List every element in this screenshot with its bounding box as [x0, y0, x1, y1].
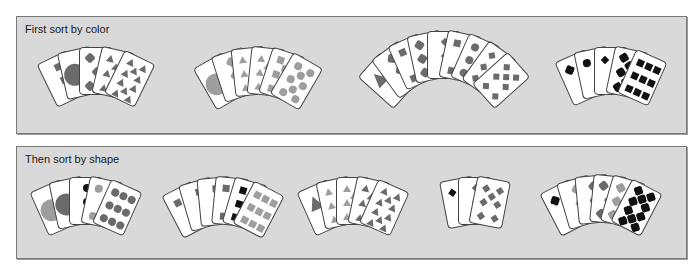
diamond-symbol-icon — [496, 187, 504, 195]
square-symbol-icon — [646, 78, 655, 87]
square-symbol-icon — [256, 223, 265, 232]
panel-title: First sort by color — [25, 23, 109, 35]
triangle-symbol-icon — [139, 63, 149, 73]
triangle-symbol-icon — [327, 201, 336, 210]
triangle-symbol-icon — [324, 187, 333, 196]
circle-symbol-icon — [290, 94, 301, 105]
triangle-symbol-icon — [238, 55, 247, 63]
clover-symbol-icon — [599, 181, 608, 190]
square-symbol-icon — [172, 198, 181, 207]
circle-symbol-icon — [285, 74, 296, 85]
diamond-symbol-icon — [490, 214, 498, 222]
clover-symbol-icon — [86, 54, 94, 62]
circle-symbol-icon — [293, 61, 304, 72]
triangle-symbol-icon — [240, 69, 249, 77]
triangle-symbol-icon — [133, 74, 143, 84]
triangle-symbol-icon — [388, 202, 398, 212]
triangle-symbol-icon — [384, 212, 394, 222]
circle-symbol-icon — [121, 207, 132, 218]
diamond-symbol-icon — [479, 198, 487, 206]
square-symbol-icon — [397, 48, 406, 57]
diamond-symbol-icon — [503, 84, 509, 90]
clover-symbol-icon — [565, 65, 576, 76]
square-symbol-icon — [453, 39, 461, 47]
circle-symbol-icon — [278, 87, 289, 98]
diamond-symbol-icon — [492, 93, 498, 99]
panel-sort-by-color: First sort by color — [16, 16, 687, 134]
diamond-symbol-icon — [477, 212, 485, 220]
clover-symbol-icon — [418, 54, 427, 63]
clover-symbol-icon — [415, 40, 424, 49]
diamond-symbol-icon — [493, 73, 499, 79]
triangle-symbol-icon — [126, 57, 136, 67]
circle-symbol-icon — [115, 220, 126, 231]
circle-symbol-icon — [295, 70, 306, 81]
clover-symbol-icon — [635, 211, 646, 222]
diamond-symbol-icon — [503, 74, 509, 80]
square-symbol-icon — [269, 198, 278, 207]
diamond-symbol-icon — [488, 52, 495, 59]
diamond-symbol-icon — [488, 193, 496, 201]
clover-symbol-icon — [617, 215, 628, 226]
square-symbol-icon — [641, 91, 650, 100]
panel-sort-by-shape: Then sort by shape — [16, 146, 687, 259]
triangle-symbol-icon — [361, 183, 370, 192]
clover-symbol-icon — [646, 192, 657, 203]
diamond-symbol-icon — [448, 189, 456, 197]
square-symbol-icon — [262, 210, 271, 219]
square-symbol-icon — [238, 186, 247, 195]
square-symbol-icon — [276, 55, 285, 64]
triangle-symbol-icon — [343, 185, 351, 192]
square-symbol-icon — [222, 184, 230, 192]
circle-symbol-icon — [287, 84, 298, 95]
triangle-symbol-icon — [117, 77, 127, 87]
diamond-symbol-icon — [513, 75, 519, 81]
triangle-symbol-icon — [129, 83, 139, 93]
triangle-symbol-icon — [257, 54, 266, 62]
triangle-symbol-icon — [393, 191, 403, 201]
circle-symbol-icon — [470, 42, 481, 53]
triangle-symbol-icon — [343, 199, 351, 206]
diamond-symbol-icon — [493, 201, 501, 209]
circle-symbol-icon — [305, 68, 316, 79]
diamond-symbol-icon — [483, 83, 489, 89]
diamond-symbol-icon — [482, 184, 490, 192]
triangle-symbol-icon — [106, 54, 115, 63]
triangle-symbol-icon — [103, 68, 112, 77]
circle-symbol-icon — [94, 184, 103, 193]
circle-symbol-icon — [126, 195, 137, 206]
clover-symbol-icon — [630, 222, 641, 233]
triangle-symbol-icon — [379, 223, 389, 233]
diamond-symbol-icon — [504, 64, 510, 70]
square-symbol-icon — [652, 65, 661, 74]
panel-title: Then sort by shape — [25, 153, 119, 165]
triangle-symbol-icon — [124, 94, 134, 104]
circle-symbol-icon — [582, 58, 591, 67]
diamond-symbol-icon — [601, 56, 609, 64]
circle-symbol-icon — [297, 81, 308, 92]
